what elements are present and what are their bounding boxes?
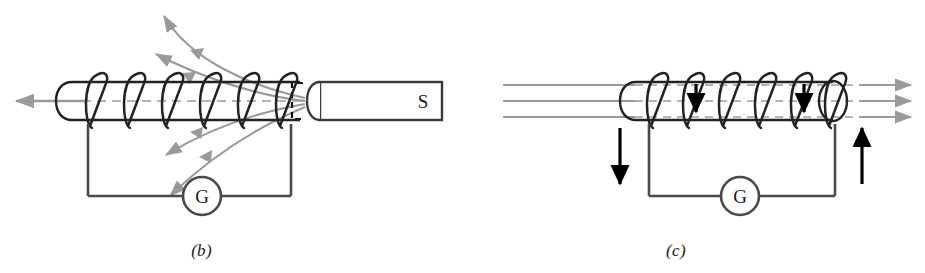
- coil-current-arrows: [696, 84, 804, 112]
- magnetic-field-lines-upper: [156, 16, 305, 101]
- bar-magnet: S: [320, 82, 442, 120]
- galvanometer: G: [183, 177, 221, 215]
- galvanometer-label: G: [733, 186, 747, 207]
- galvanometer: G: [721, 177, 759, 215]
- field-lines-outgoing: [859, 85, 911, 117]
- magnet-end-cap: [307, 82, 320, 120]
- field-lines-incoming: [503, 85, 635, 117]
- magnetic-field-line-arrowheads-upper: [182, 48, 204, 84]
- figure-root: S: [0, 0, 925, 273]
- panel-c: G (c): [463, 0, 925, 273]
- panel-c-caption: (c): [445, 241, 907, 261]
- magnet-pole-label: S: [418, 91, 429, 112]
- galvanometer-label: G: [195, 186, 209, 207]
- panel-b-caption: (b): [0, 241, 433, 261]
- panel-b: S: [0, 0, 463, 273]
